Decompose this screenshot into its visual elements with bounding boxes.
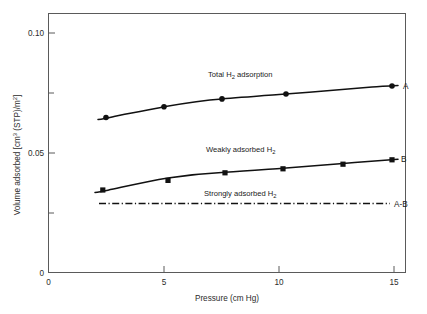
xtick-label-0: 0	[46, 278, 51, 287]
data-point-marker	[161, 104, 167, 110]
data-point-marker	[280, 166, 285, 171]
data-point-marker	[389, 83, 395, 89]
series-strongly-adsorbed-h2: Strongly adsorbed H2 A-B	[99, 189, 408, 209]
y-axis-title-mid: (STP)/m	[13, 100, 22, 133]
data-point-marker	[103, 115, 109, 121]
data-point-marker	[100, 187, 105, 192]
xtick-label-15: 15	[389, 278, 399, 287]
data-point-marker	[222, 170, 227, 175]
series-a-end-label: A	[403, 82, 409, 91]
y-axis-ticks	[49, 33, 56, 213]
plot-frame	[49, 14, 406, 273]
strongly-adsorbed-annotation: Strongly adsorbed H2	[204, 189, 276, 199]
xtick-label-5: 5	[162, 278, 167, 287]
data-point-marker	[340, 162, 345, 167]
series-weakly-adsorbed-line	[95, 159, 398, 192]
y-axis-title-post: ]	[13, 95, 22, 97]
xtick-label-10: 10	[274, 278, 284, 287]
x-axis-title: Pressure (cm Hg)	[195, 294, 259, 303]
series-b-end-label: B	[401, 155, 407, 164]
adsorption-isotherm-chart: 0.10 0.05 0 0 5 10 15 Pressure (cm Hg) V…	[0, 0, 427, 314]
x-axis-ticks	[49, 266, 395, 273]
series-weakly-adsorbed-h2: Weakly adsorbed H2 B	[95, 145, 407, 193]
data-point-marker	[389, 157, 394, 162]
ytick-label-0: 0	[39, 269, 44, 278]
total-h2-annotation: Total H2 adsorption	[208, 70, 272, 80]
series-total-h2-line	[98, 86, 398, 120]
series-ab-end-label: A-B	[394, 200, 408, 209]
weakly-adsorbed-annotation: Weakly adsorbed H2	[206, 145, 275, 155]
y-axis-title-pre: Volume adsorbed [cm	[13, 136, 22, 215]
series-total-h2-adsorption: Total H2 adsorption A	[98, 70, 409, 120]
data-point-marker	[219, 96, 225, 102]
y-axis-title: Volume adsorbed [cm3 (STP)/m2]	[12, 95, 22, 216]
data-point-marker	[165, 178, 170, 183]
ytick-label-0.05: 0.05	[28, 149, 44, 158]
ytick-label-0.10: 0.10	[28, 29, 44, 38]
data-point-marker	[283, 91, 289, 97]
